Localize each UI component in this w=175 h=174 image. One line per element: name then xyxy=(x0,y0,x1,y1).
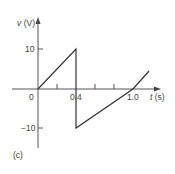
x-axis-label: t (s) xyxy=(150,92,165,102)
y-tick-label-neg10: −10 xyxy=(21,123,36,133)
x-tick-label-0.4: 0.4 xyxy=(70,92,82,102)
y-axis-arrow-icon xyxy=(36,17,41,24)
x-tick-label-0: 0 xyxy=(29,92,34,102)
x-axis-arrow-icon xyxy=(154,87,161,92)
y-tick-label-10: 10 xyxy=(25,44,35,54)
waveform-diagram: v (V) 10 −10 0 0.4 1.0 t (s) (c) xyxy=(0,0,175,174)
y-axis-label: v (V) xyxy=(17,18,35,28)
figure-caption: (c) xyxy=(13,150,23,160)
x-tick-label-1.0: 1.0 xyxy=(127,92,139,102)
